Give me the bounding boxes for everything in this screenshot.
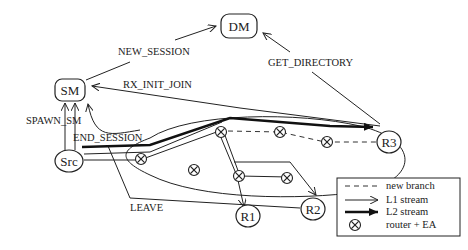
legend-label: L2 stream xyxy=(386,206,428,217)
node-src-label: Src xyxy=(60,154,78,169)
l1-stream-r2 xyxy=(234,162,316,195)
end-session-arrow xyxy=(88,104,140,133)
router-ea-icon xyxy=(189,165,200,176)
node-dm-label: DM xyxy=(229,19,250,34)
node-r1-label: R1 xyxy=(240,209,255,224)
label-end-session: END_SESSION xyxy=(73,132,143,143)
label-get-directory: GET_DIRECTORY xyxy=(268,57,353,68)
new-session-arrow xyxy=(86,62,130,80)
legend-label: L1 stream xyxy=(386,194,428,205)
legend-router-ea-icon xyxy=(350,220,361,231)
rx-init-join-arrow xyxy=(92,86,380,126)
legend-label: new branch xyxy=(386,180,435,191)
router-ea-icon xyxy=(216,127,227,138)
label-new-session: NEW_SESSION xyxy=(118,46,190,57)
label-spawn-sm: SPAWN_SM xyxy=(26,115,82,126)
router-ea-icon xyxy=(136,154,147,165)
get-directory-arrow xyxy=(263,33,290,52)
node-r1: R1 xyxy=(236,205,260,227)
label-leave: LEAVE xyxy=(130,202,163,213)
node-sm: SM xyxy=(55,79,85,101)
node-r3: R3 xyxy=(377,131,401,153)
router-ea-icon xyxy=(275,127,286,138)
router-ea-icon xyxy=(234,171,245,182)
label-rx-init-join: RX_INIT_JOIN xyxy=(123,79,192,90)
router-ea-icon xyxy=(282,173,293,184)
multicast-session-diagram: DM SM Src R1 R2 R3 NEW_SESSION GET_DIREC… xyxy=(0,0,468,250)
node-r3-label: R3 xyxy=(381,135,396,150)
router-ea-icon xyxy=(322,137,333,148)
node-sm-label: SM xyxy=(61,83,80,98)
node-dm: DM xyxy=(221,14,257,38)
node-r2: R2 xyxy=(301,198,325,220)
node-r2-label: R2 xyxy=(305,202,320,217)
new-branch xyxy=(228,131,378,142)
node-src: Src xyxy=(55,150,83,172)
legend-label: router + EA xyxy=(386,219,437,230)
legend: new branch L1 stream L2 stream router + … xyxy=(337,178,460,236)
